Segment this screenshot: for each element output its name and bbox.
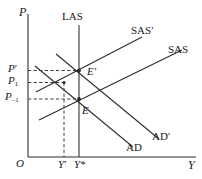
sas-curve <box>39 50 182 120</box>
output-tick-y-prime: Y′ <box>58 159 67 170</box>
price-tick-p-prime-mod: ′ <box>15 62 17 74</box>
axis-label-p: P <box>19 6 26 18</box>
output-tick-y-star-mod: * <box>80 158 86 170</box>
price-tick-p-one-sub: 1 <box>15 80 18 87</box>
equilibrium-point-e-prime <box>77 69 81 73</box>
axis-label-y: Y <box>188 159 195 171</box>
price-tick-p-minus-one: P–1 <box>5 91 19 104</box>
ad-as-diagram: P Y O P′ P1 P–1 Y′ Y* LAS SAS SAS′ AD AD… <box>0 0 202 179</box>
output-tick-y-prime-mod: ′ <box>64 158 66 170</box>
curve-label-las: LAS <box>62 11 83 22</box>
price-tick-p-minus-one-sub: –1 <box>12 96 19 103</box>
intersection-point-y-prime <box>62 81 65 84</box>
curve-label-sas: SAS <box>168 44 188 55</box>
price-tick-p-one: P1 <box>8 75 18 88</box>
curve-label-sas-prime: SAS′ <box>131 25 154 36</box>
curve-label-ad: AD <box>126 142 142 153</box>
diagram-canvas <box>0 0 202 179</box>
origin-label: O <box>16 158 24 169</box>
price-tick-p-prime-base: P <box>8 62 15 74</box>
equilibrium-label-e-prime: E′ <box>87 66 96 77</box>
output-tick-y-star: Y* <box>74 159 86 170</box>
price-tick-p-one-base: P <box>8 74 15 86</box>
curve-label-ad-prime: AD′ <box>152 131 170 142</box>
equilibrium-label-e: E <box>82 105 89 116</box>
price-tick-p-prime: P′ <box>8 63 17 74</box>
price-tick-p-minus-one-base: P <box>5 90 12 102</box>
equilibrium-point-e <box>77 97 81 101</box>
